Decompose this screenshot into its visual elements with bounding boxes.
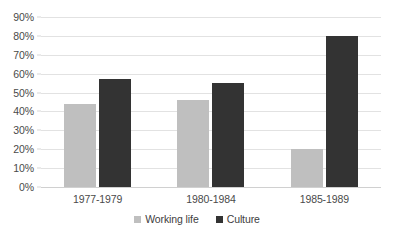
y-axis-tick-label: 10% xyxy=(13,162,34,174)
bar-working-life[interactable] xyxy=(64,104,96,187)
y-axis-tick-label: 30% xyxy=(13,124,34,136)
y-axis-tick-label: 0% xyxy=(19,181,34,193)
bar-group xyxy=(154,17,267,187)
bar-working-life[interactable] xyxy=(291,149,323,187)
legend-label: Culture xyxy=(227,213,260,225)
x-axis-tick-label: 1980-1984 xyxy=(154,189,267,211)
y-axis-tick-label: 60% xyxy=(13,68,34,80)
x-axis-tick-label: 1977-1979 xyxy=(41,189,154,211)
y-axis-tick-label: 90% xyxy=(13,11,34,23)
bar-chart: 0%10%20%30%40%50%60%70%80%90% 1977-19791… xyxy=(0,0,394,244)
bar-culture[interactable] xyxy=(326,36,358,187)
x-axis-tick-label: 1985-1989 xyxy=(268,189,381,211)
bar-culture[interactable] xyxy=(212,83,244,187)
y-axis-tick-label: 20% xyxy=(13,143,34,155)
y-axis-tick-label: 50% xyxy=(13,87,34,99)
chart-legend: Working lifeCulture xyxy=(0,213,394,225)
plot-area xyxy=(41,17,381,187)
legend-item-culture[interactable]: Culture xyxy=(216,213,260,225)
gridline-0pct xyxy=(41,187,381,188)
x-axis: 1977-19791980-19841985-1989 xyxy=(41,189,381,211)
y-axis-tick-label: 40% xyxy=(13,105,34,117)
bar-group xyxy=(268,17,381,187)
bar-working-life[interactable] xyxy=(177,100,209,187)
legend-swatch-icon xyxy=(134,216,141,223)
y-axis-tick-label: 80% xyxy=(13,30,34,42)
y-axis: 0%10%20%30%40%50%60%70%80%90% xyxy=(0,0,41,187)
bar-group xyxy=(41,17,154,187)
bar-groups xyxy=(41,17,381,187)
legend-item-working-life[interactable]: Working life xyxy=(134,213,198,225)
legend-label: Working life xyxy=(145,213,198,225)
bar-culture[interactable] xyxy=(99,79,131,187)
legend-swatch-icon xyxy=(216,216,223,223)
y-axis-tick-label: 70% xyxy=(13,49,34,61)
